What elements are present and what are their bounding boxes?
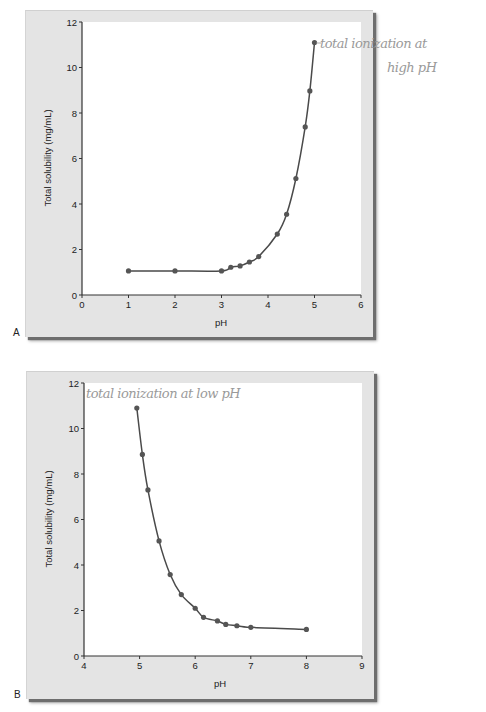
- y-tick-label: 2: [72, 244, 77, 255]
- plot-area-a: [82, 22, 361, 295]
- y-axis-label-b: Total solubility (mg/mL): [43, 470, 54, 567]
- y-tick-label: 6: [74, 514, 79, 525]
- data-point: [193, 606, 198, 611]
- data-point: [247, 259, 252, 264]
- x-tick-label: 4: [81, 660, 86, 671]
- y-tick-label: 10: [66, 62, 77, 73]
- x-tick-label: 4: [265, 299, 270, 310]
- annotation-a-line1: total ionization at: [320, 36, 428, 51]
- data-point: [219, 268, 224, 273]
- y-tick-label: 4: [72, 199, 77, 210]
- y-tick-label: 6: [72, 153, 77, 164]
- data-point: [179, 592, 184, 597]
- y-tick-label: 0: [74, 651, 79, 662]
- data-point: [284, 212, 289, 217]
- y-axis-label-a: Total solubility (mg/mL): [42, 109, 53, 206]
- data-point: [145, 487, 150, 492]
- data-point: [140, 452, 145, 457]
- y-tick-label: 4: [74, 560, 79, 571]
- data-point: [228, 265, 233, 270]
- x-tick-label: 3: [219, 299, 224, 310]
- data-point: [215, 618, 220, 623]
- chart-panel-b: B 024681012456789 pH Total solubility (m…: [0, 360, 486, 712]
- chart-a: 0246810120123456 pH Total solubility (mg…: [0, 0, 486, 350]
- x-tick-label: 9: [359, 660, 364, 671]
- data-point: [134, 405, 139, 410]
- x-tick-label: 0: [79, 299, 84, 310]
- data-point: [201, 615, 206, 620]
- data-point: [307, 88, 312, 93]
- data-point: [248, 625, 253, 630]
- data-point: [223, 622, 228, 627]
- data-point: [168, 572, 173, 577]
- y-tick-label: 12: [68, 378, 79, 389]
- data-point: [293, 176, 298, 181]
- y-tick-label: 12: [66, 17, 77, 28]
- y-tick-label: 2: [74, 605, 79, 616]
- y-tick-label: 10: [68, 423, 79, 434]
- annotation-a-line2: high pH: [387, 60, 438, 75]
- plot-area-b: [84, 383, 362, 656]
- data-point: [303, 124, 308, 129]
- x-tick-label: 7: [248, 660, 253, 671]
- data-point: [312, 40, 317, 45]
- annotation-b: total ionization at low pH: [86, 386, 241, 401]
- data-point: [234, 623, 239, 628]
- chart-b: 024681012456789 pH Total solubility (mg/…: [0, 360, 486, 712]
- x-tick-label: 8: [304, 660, 309, 671]
- data-point: [238, 263, 243, 268]
- data-point: [256, 254, 261, 259]
- x-tick-label: 6: [358, 299, 363, 310]
- data-point: [156, 538, 161, 543]
- data-point: [126, 268, 131, 273]
- chart-panel-a: A 0246810120123456 pH Total solubility (…: [0, 0, 486, 350]
- x-tick-label: 5: [312, 299, 317, 310]
- y-tick-label: 8: [72, 108, 77, 119]
- x-axis-label-a: pH: [215, 317, 227, 328]
- x-tick-label: 1: [126, 299, 131, 310]
- x-tick-label: 2: [172, 299, 177, 310]
- data-point: [172, 268, 177, 273]
- y-tick-label: 8: [74, 469, 79, 480]
- x-axis-label-b: pH: [214, 678, 226, 689]
- x-tick-label: 6: [193, 660, 198, 671]
- y-tick-label: 0: [72, 290, 77, 301]
- data-point: [275, 231, 280, 236]
- data-point: [304, 627, 309, 632]
- x-tick-label: 5: [137, 660, 142, 671]
